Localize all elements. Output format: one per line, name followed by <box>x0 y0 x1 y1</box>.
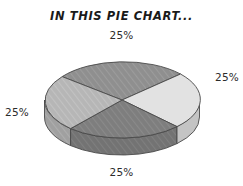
pie-label-right: 25% <box>215 71 239 83</box>
pie-label-bottom: 25% <box>0 166 243 178</box>
pie-top-face <box>45 62 200 138</box>
pie-label-left: 25% <box>5 106 29 118</box>
pie-label-top: 25% <box>0 29 243 41</box>
pie-chart-figure: IN THIS PIE CHART... <box>0 0 243 186</box>
pie-chart-graphic <box>0 0 243 186</box>
